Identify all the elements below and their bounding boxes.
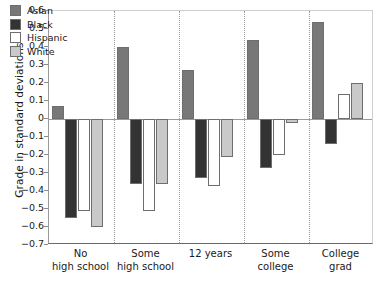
bar-black-college-grad xyxy=(325,119,337,144)
x-category-line: grad xyxy=(308,261,373,274)
plot-area xyxy=(48,10,373,244)
x-category-label: Nohigh school xyxy=(48,248,113,273)
x-axis-category-labels: Nohigh schoolSomehigh school12 yearsSome… xyxy=(48,246,373,290)
y-tick-label: −0.3 xyxy=(10,167,44,176)
bar-black-12-years xyxy=(195,119,207,178)
y-tick-mark xyxy=(44,118,48,119)
y-tick-mark xyxy=(44,64,48,65)
y-tick-label: −0.5 xyxy=(10,203,44,212)
legend-item-hispanic: Hispanic xyxy=(10,31,67,44)
bar-black-some-college xyxy=(260,119,272,168)
y-tick-mark xyxy=(44,82,48,83)
legend-swatch-icon xyxy=(10,19,21,30)
x-category-line: No xyxy=(48,248,113,261)
legend-swatch-icon xyxy=(10,5,21,16)
bar-chart: Grade in standard deviations 0.60.50.40.… xyxy=(0,0,378,291)
legend-label: White xyxy=(27,46,55,57)
legend-swatch-icon xyxy=(10,46,21,57)
bar-black-some-high-school xyxy=(130,119,142,184)
bar-hispanic-some-high-school xyxy=(143,119,155,211)
x-category-label: Somehigh school xyxy=(113,248,178,273)
x-category-line: high school xyxy=(48,261,113,274)
legend-label: Asian xyxy=(27,5,53,16)
y-tick-label: −0.6 xyxy=(10,221,44,230)
bar-white-some-college xyxy=(286,119,298,123)
group-divider xyxy=(309,11,310,243)
bar-hispanic-12-years xyxy=(208,119,220,186)
x-category-label: 12 years xyxy=(178,248,243,261)
x-category-line: 12 years xyxy=(178,248,243,261)
bar-asian-some-high-school xyxy=(117,47,129,119)
x-category-line: high school xyxy=(113,261,178,274)
y-tick-label: −0.7 xyxy=(10,239,44,248)
group-divider xyxy=(179,11,180,243)
bar-asian-no-high-school xyxy=(52,106,64,119)
legend-item-white: White xyxy=(10,45,67,58)
bar-hispanic-no-high-school xyxy=(78,119,90,211)
y-tick-mark xyxy=(44,100,48,101)
y-tick-mark xyxy=(44,136,48,137)
y-tick-label: 0 xyxy=(10,113,44,122)
x-category-line: College xyxy=(308,248,373,261)
x-category-label: Collegegrad xyxy=(308,248,373,273)
y-tick-mark xyxy=(44,28,48,29)
legend-label: Hispanic xyxy=(27,32,67,43)
bar-hispanic-college-grad xyxy=(338,94,350,119)
legend-item-asian: Asian xyxy=(10,4,67,17)
y-tick-mark xyxy=(44,226,48,227)
y-tick-mark xyxy=(44,154,48,155)
bar-asian-some-college xyxy=(247,40,259,119)
x-category-line: college xyxy=(243,261,308,274)
bar-asian-college-grad xyxy=(312,22,324,119)
group-divider xyxy=(244,11,245,243)
y-tick-mark xyxy=(44,244,48,245)
y-tick-mark xyxy=(44,208,48,209)
x-category-line: Some xyxy=(113,248,178,261)
bar-white-12-years xyxy=(221,119,233,157)
legend: AsianBlackHispanicWhite xyxy=(10,4,67,58)
y-tick-label: 0.1 xyxy=(10,95,44,104)
bar-white-no-high-school xyxy=(91,119,103,227)
bar-asian-12-years xyxy=(182,70,194,119)
legend-label: Black xyxy=(27,19,53,30)
y-tick-mark xyxy=(44,190,48,191)
group-divider xyxy=(114,11,115,243)
y-tick-label: 0.2 xyxy=(10,77,44,86)
bar-hispanic-some-college xyxy=(273,119,285,155)
y-tick-label: −0.2 xyxy=(10,149,44,158)
x-category-label: Somecollege xyxy=(243,248,308,273)
y-tick-label: 0.3 xyxy=(10,59,44,68)
y-tick-mark xyxy=(44,46,48,47)
bar-white-some-high-school xyxy=(156,119,168,184)
y-tick-label: −0.1 xyxy=(10,131,44,140)
y-tick-mark xyxy=(44,10,48,11)
x-category-line: Some xyxy=(243,248,308,261)
bar-black-no-high-school xyxy=(65,119,77,218)
y-tick-mark xyxy=(44,172,48,173)
legend-swatch-icon xyxy=(10,32,21,43)
legend-item-black: Black xyxy=(10,18,67,31)
y-tick-label: −0.4 xyxy=(10,185,44,194)
bar-white-college-grad xyxy=(351,83,363,119)
